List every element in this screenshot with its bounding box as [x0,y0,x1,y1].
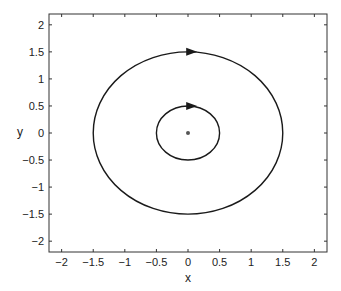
x-tick-label: −1.5 [82,256,104,268]
y-tick-label: 1 [38,73,44,85]
y-tick-label: −0.5 [22,154,44,166]
direction-arrow-icon [186,102,197,110]
y-tick-label: −1.5 [22,208,44,220]
x-tick-label: 1.5 [275,256,290,268]
y-tick-label: 0 [38,127,44,139]
y-tick-label: −1 [31,181,44,193]
y-tick-label: 1.5 [29,46,44,58]
y-tick-label: −2 [31,235,44,247]
y-axis-label: y [17,125,23,139]
y-tick-label: 0.5 [29,100,44,112]
x-tick-label: 2 [311,256,317,268]
x-tick-label: 0 [185,256,191,268]
x-tick-label: 1 [248,256,254,268]
direction-arrow-icon [186,48,197,56]
phase-portrait-chart: −2−1.5−1−0.500.511.52 21.510.50−0.5−1−1.… [0,0,341,291]
x-tick-label: −1 [119,256,132,268]
orbits [93,48,283,214]
x-tick-label: −0.5 [146,256,168,268]
y-tick-label: 2 [38,19,44,31]
x-axis-label: x [185,271,191,285]
x-tick-label: 0.5 [212,256,227,268]
equilibrium-point [186,131,190,135]
x-tick-label: −2 [55,256,68,268]
